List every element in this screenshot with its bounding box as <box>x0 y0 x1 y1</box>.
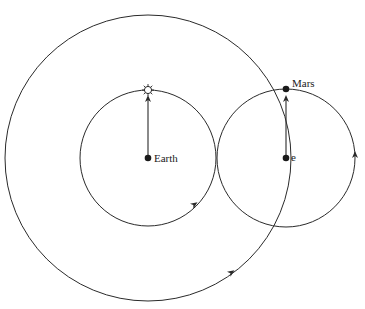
mars-label: Mars <box>292 77 315 89</box>
epicycle-center-label: e <box>291 151 296 163</box>
earth-label: Earth <box>154 152 178 164</box>
deferent-arrow-icon <box>222 272 232 279</box>
earth-dot-icon <box>145 155 152 162</box>
epicycle-diagram: Earth e Mars <box>0 0 365 309</box>
epicycle-center-dot-icon <box>283 155 290 162</box>
sun-orbit-arrow-icon <box>186 204 195 210</box>
mars-dot-icon <box>283 86 290 93</box>
sun-icon <box>142 84 154 96</box>
